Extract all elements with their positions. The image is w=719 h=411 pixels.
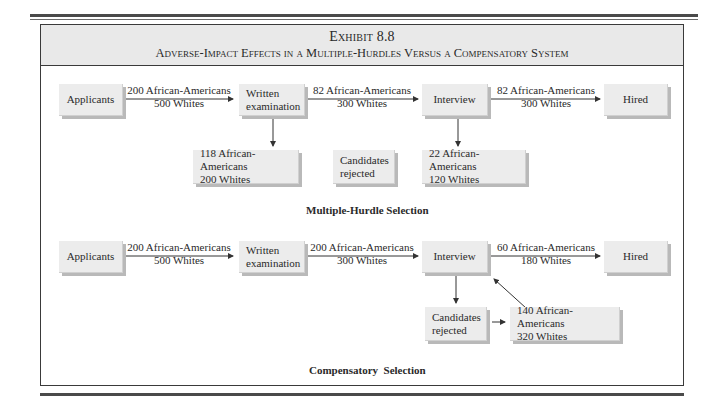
mh-rejected-interview-line2: 120 Whites bbox=[429, 173, 479, 185]
mh-flow-1-label: 200 African-Americans500 Whites bbox=[124, 84, 234, 110]
cs-flow-1-line1: 200 African-Americans bbox=[127, 241, 231, 253]
mh-interview-box: Interview bbox=[422, 84, 488, 116]
cs-flow-1-label: 200 African-Americans500 Whites bbox=[124, 241, 234, 267]
mh-written-line1: Written bbox=[246, 87, 279, 99]
cs-candidates-line1: Candidates bbox=[432, 311, 481, 323]
cs-applicants-label: Applicants bbox=[67, 250, 115, 263]
cs-interview-box: Interview bbox=[422, 241, 488, 273]
cs-flow-2-line1: 200 African-Americans bbox=[310, 241, 414, 253]
cs-flow-3-line2: 180 Whites bbox=[521, 254, 571, 266]
mh-written-box: Writtenexamination bbox=[239, 84, 305, 116]
mh-applicants-label: Applicants bbox=[67, 93, 115, 106]
mh-candidates-line2: rejected bbox=[340, 167, 375, 179]
mh-candidates-line1: Candidates bbox=[340, 154, 389, 166]
cs-flow-3-line1: 60 African-Americans bbox=[497, 241, 595, 253]
mh-candidates-rejected-label: Candidatesrejected bbox=[340, 154, 389, 180]
mh-rejected-interview-line1: 22 African-Americans bbox=[429, 147, 479, 172]
mh-rejected-written-line1: 118 African-Americans bbox=[200, 147, 256, 172]
mh-flow-3-label: 82 African-Americans300 Whites bbox=[491, 84, 601, 110]
mh-flow-2-label: 82 African-Americans300 Whites bbox=[306, 84, 418, 110]
cs-applicants-box: Applicants bbox=[59, 241, 123, 273]
cs-rejected-box: 140 African-Americans320 Whites bbox=[510, 307, 620, 341]
cs-flow-2-label: 200 African-Americans300 Whites bbox=[306, 241, 418, 267]
cs-written-line2: examination bbox=[246, 257, 300, 269]
cs-written-box: Writtenexamination bbox=[239, 241, 305, 273]
mh-rejected-written-label: 118 African-Americans200 Whites bbox=[200, 147, 294, 186]
cs-hired-box: Hired bbox=[604, 241, 668, 273]
cs-hired-label: Hired bbox=[623, 250, 648, 263]
mh-hired-label: Hired bbox=[623, 93, 648, 106]
cs-flow-2-line2: 300 Whites bbox=[337, 254, 387, 266]
mh-rejected-interview-box: 22 African-Americans120 Whites bbox=[422, 150, 526, 184]
mh-flow-3-line1: 82 African-Americans bbox=[497, 84, 595, 96]
cs-written-label: Writtenexamination bbox=[246, 244, 300, 270]
mh-flow-2-line1: 82 African-Americans bbox=[313, 84, 411, 96]
cs-rejected-line1: 140 African-Americans bbox=[517, 304, 573, 329]
mh-flow-1-line1: 200 African-Americans bbox=[127, 84, 231, 96]
cs-caption: Compensatory Selection bbox=[309, 364, 426, 376]
mh-candidates-rejected-box: Candidatesrejected bbox=[333, 150, 395, 184]
mh-rejected-interview-label: 22 African-Americans120 Whites bbox=[429, 147, 521, 186]
cs-interview-label: Interview bbox=[433, 250, 475, 263]
cs-flow-1-line2: 500 Whites bbox=[154, 254, 204, 266]
mh-applicants-box: Applicants bbox=[59, 84, 123, 116]
mh-flow-3-line2: 300 Whites bbox=[521, 97, 571, 109]
mh-flow-2-line2: 300 Whites bbox=[337, 97, 387, 109]
mh-rejected-written-line2: 200 Whites bbox=[200, 173, 250, 185]
mh-caption: Multiple-Hurdle Selection bbox=[306, 204, 429, 216]
cs-candidates-rejected-box: Candidatesrejected bbox=[425, 307, 487, 341]
cs-rejected-line2: 320 Whites bbox=[517, 330, 567, 342]
mh-written-line2: examination bbox=[246, 100, 300, 112]
mh-rejected-written-box: 118 African-Americans200 Whites bbox=[193, 150, 299, 184]
mh-interview-label: Interview bbox=[433, 93, 475, 106]
mh-written-label: Writtenexamination bbox=[246, 87, 300, 113]
mh-flow-1-line2: 500 Whites bbox=[154, 97, 204, 109]
cs-candidates-line2: rejected bbox=[432, 324, 467, 336]
cs-written-line1: Written bbox=[246, 244, 279, 256]
cs-candidates-rejected-label: Candidatesrejected bbox=[432, 311, 481, 337]
cs-rejected-label: 140 African-Americans320 Whites bbox=[517, 304, 615, 343]
cs-flow-3-label: 60 African-Americans180 Whites bbox=[491, 241, 601, 267]
mh-hired-box: Hired bbox=[604, 84, 668, 116]
